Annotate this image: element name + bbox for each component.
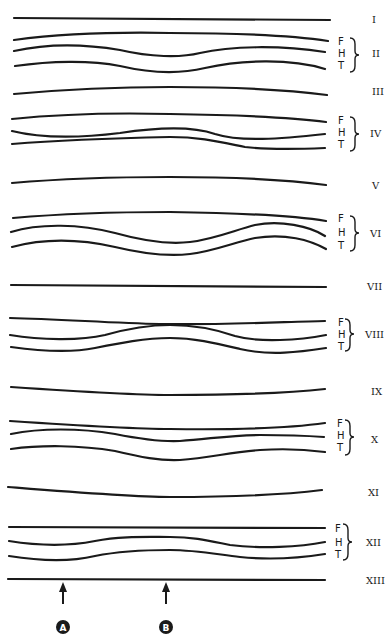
label-VI-H: H xyxy=(338,227,346,238)
row-VIII: F H T VIII xyxy=(10,317,384,353)
label-VIII: VIII xyxy=(364,329,384,340)
label-X-H: H xyxy=(337,430,345,441)
label-II: II xyxy=(372,48,380,59)
line-II-H xyxy=(14,46,325,57)
line-X-F xyxy=(10,421,325,429)
label-IV-F: F xyxy=(338,115,344,126)
line-X-T xyxy=(11,446,325,460)
brace-IV xyxy=(350,117,359,151)
row-III: III xyxy=(14,86,384,97)
label-XII-T: T xyxy=(334,549,342,560)
label-VI-F: F xyxy=(338,213,344,224)
marker-A-letter: A xyxy=(60,623,67,633)
label-IV-H: H xyxy=(338,127,346,138)
row-V: V xyxy=(12,177,380,191)
label-VIII-F: F xyxy=(338,317,344,328)
row-XIII: XIII xyxy=(8,575,385,586)
label-XII: XII xyxy=(366,537,381,548)
row-XI: XI xyxy=(8,487,379,498)
label-XII-F: F xyxy=(335,523,341,534)
line-VIII-F xyxy=(10,318,325,324)
line-XIII xyxy=(8,579,325,580)
marker-A: A xyxy=(56,582,70,634)
brace-VIII xyxy=(345,319,354,351)
label-II-H: H xyxy=(338,48,346,59)
label-XII-H: H xyxy=(335,537,343,548)
line-VII xyxy=(11,285,326,287)
label-VII: VII xyxy=(366,281,382,292)
layer-diagram: I F H T II III F H T IV V F H T xyxy=(0,0,390,643)
label-II-F: F xyxy=(338,36,344,47)
label-I: I xyxy=(372,14,376,25)
row-IX: IX xyxy=(11,386,383,397)
row-I: I xyxy=(14,14,376,25)
line-IV-F xyxy=(12,114,326,122)
label-V: V xyxy=(371,180,380,191)
label-XI: XI xyxy=(368,487,379,498)
label-X-T: T xyxy=(336,442,344,453)
label-X: X xyxy=(371,434,379,445)
line-VI-F xyxy=(13,212,326,221)
row-IV: F H T IV xyxy=(12,114,382,151)
label-VI-T: T xyxy=(337,240,345,251)
line-II-F xyxy=(14,33,328,41)
label-VI: VI xyxy=(369,228,381,239)
label-X-F: F xyxy=(337,418,343,429)
label-II-T: T xyxy=(337,60,345,71)
label-III: III xyxy=(372,86,384,97)
line-III xyxy=(14,87,327,95)
row-XII: F H T XII xyxy=(9,523,381,560)
row-VI: F H T VI xyxy=(11,212,381,255)
line-VI-T xyxy=(12,236,326,255)
label-VIII-T: T xyxy=(337,341,345,352)
marker-B: B xyxy=(159,582,173,634)
line-XI xyxy=(8,487,322,497)
brace-X xyxy=(345,420,354,455)
line-XII-H xyxy=(9,537,325,547)
row-VII: VII xyxy=(11,281,382,292)
brace-VI xyxy=(350,216,359,251)
line-II-T xyxy=(15,61,325,72)
label-VIII-H: H xyxy=(338,329,346,340)
label-IV-T: T xyxy=(337,139,345,150)
line-X-H xyxy=(11,430,324,442)
row-X: F H T X xyxy=(10,418,379,460)
line-XII-F xyxy=(9,527,325,528)
label-IX: IX xyxy=(371,386,383,397)
line-V xyxy=(12,177,326,185)
brace-II xyxy=(350,38,359,72)
line-IX xyxy=(11,387,325,395)
arrowhead-icon xyxy=(59,582,67,592)
line-XII-T xyxy=(9,550,325,560)
line-I xyxy=(14,18,330,20)
label-XIII: XIII xyxy=(366,575,385,586)
brace-XII xyxy=(343,524,352,560)
row-II: F H T II xyxy=(14,33,380,72)
marker-B-letter: B xyxy=(163,623,170,633)
arrowhead-icon xyxy=(162,582,170,592)
label-IV: IV xyxy=(370,128,382,139)
